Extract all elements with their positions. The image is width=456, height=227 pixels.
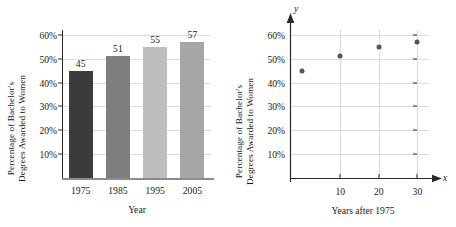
scatter-chart-gridline	[290, 59, 429, 60]
bar-chart-y-tick-label: 20%	[39, 125, 57, 136]
scatter-chart-gridline	[290, 106, 429, 107]
bar-chart-y-tick-label: 40%	[39, 77, 57, 88]
scatter-chart-y-axis-name: y	[294, 4, 298, 14]
scatter-chart-gridline	[290, 83, 429, 84]
bar-chart-value-label: 45	[76, 58, 86, 69]
scatter-chart-gridline	[290, 130, 429, 131]
bar-chart-bar: 55	[143, 47, 167, 178]
bar-chart-y-tick-label: 50%	[39, 53, 57, 64]
scatter-chart-vgridline	[417, 30, 418, 178]
scatter-chart-x-tick-label: 20	[374, 186, 384, 197]
scatter-chart-x-axis-name: x	[443, 173, 447, 183]
scatter-chart-plot-area: 10%20%30%40%50%60%102030	[290, 30, 429, 178]
scatter-chart-y-tick-label: 10%	[267, 149, 285, 160]
scatter-chart-figure: Percentage of Bachelor's Degrees Awarded…	[228, 0, 456, 227]
bar-chart-bar: 45	[69, 71, 93, 178]
bar-chart-value-label: 51	[113, 43, 123, 54]
bar-chart-y-tick-label: 10%	[39, 149, 57, 160]
scatter-chart-y-axis-title: Percentage of Bachelor's Degrees Awarded…	[234, 78, 256, 185]
bar-chart-x-tick-label: 1985	[108, 185, 127, 196]
bar-chart-value-label: 57	[188, 29, 198, 40]
bar-chart-x-axis-title: Year	[128, 204, 146, 215]
bar-chart-y-axis-title-line1: Percentage of Bachelor's	[6, 75, 17, 182]
bar-chart-x-tick-label: 1975	[71, 185, 90, 196]
bar-chart-bar: 57	[180, 42, 204, 178]
scatter-chart-x-axis-arrow-icon	[284, 172, 444, 186]
bar-chart-x-tick-label: 1995	[146, 185, 165, 196]
scatter-chart-vgridline	[340, 30, 341, 178]
bar-chart-figure: Percentage of Bachelor's Degrees Awarded…	[0, 0, 228, 227]
bar-chart-value-label: 55	[150, 34, 160, 45]
scatter-chart-y-tick-label: 60%	[267, 29, 285, 40]
scatter-chart-x-axis-title: Years after 1975	[332, 205, 395, 216]
scatter-chart-data-point	[415, 39, 420, 44]
scatter-chart-data-point	[338, 54, 343, 59]
scatter-chart-gridline	[290, 35, 429, 36]
scatter-chart-x-tick-label: 10	[335, 186, 345, 197]
scatter-chart-y-axis-title-line2: Degrees Awarded to Women	[245, 78, 256, 185]
bar-chart-x-tick-label: 2005	[183, 185, 202, 196]
scatter-chart-vgridline	[379, 30, 380, 178]
scatter-chart-data-point	[376, 44, 381, 49]
scatter-chart-y-tick-label: 20%	[267, 125, 285, 136]
bar-chart-y-axis-title-line2: Degrees Awarded to Women	[17, 75, 28, 182]
bar-chart-x-axis-line	[62, 178, 214, 180]
scatter-chart-y-axis-arrow-icon	[284, 12, 298, 184]
scatter-chart-data-point	[299, 68, 304, 73]
bar-chart-y-axis-line	[62, 30, 63, 178]
bar-chart-y-tick-label: 30%	[39, 101, 57, 112]
bar-chart-y-axis-title: Percentage of Bachelor's Degrees Awarded…	[6, 75, 28, 182]
bar-chart-bar: 51	[106, 56, 130, 178]
scatter-chart-y-tick-label: 50%	[267, 53, 285, 64]
scatter-chart-y-tick-label: 30%	[267, 101, 285, 112]
bar-chart-plot-area: 10%20%30%40%50%60%4519755119855519955720…	[62, 30, 211, 178]
scatter-chart-gridline	[290, 154, 429, 155]
bar-chart-y-tick-label: 60%	[39, 29, 57, 40]
scatter-chart-y-axis-title-line1: Percentage of Bachelor's	[234, 78, 245, 185]
scatter-chart-x-tick-label: 30	[413, 186, 423, 197]
scatter-chart-y-tick-label: 40%	[267, 77, 285, 88]
